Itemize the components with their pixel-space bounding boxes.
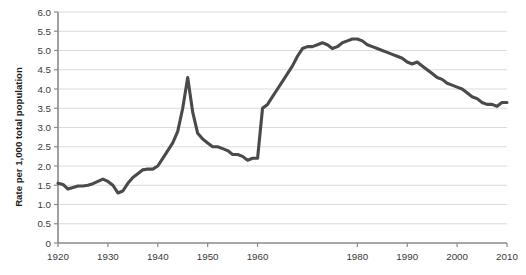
x-tick-label: 1990: [396, 251, 418, 262]
line-chart: 6.05.55.04.54.03.53.02.52.01.51.00.50 19…: [0, 0, 526, 275]
x-tick-label: 1950: [197, 251, 219, 262]
y-tick-label: 1.5: [37, 180, 51, 191]
y-tick-label: 0.5: [37, 218, 51, 229]
y-tick-label: 4.0: [37, 84, 51, 95]
y-tick-label: 5.5: [37, 26, 51, 37]
y-tick-label: 4.5: [37, 64, 51, 75]
y-tick-label: 1.0: [37, 199, 51, 210]
x-tick-label: 2000: [446, 251, 468, 262]
y-tick-label: 2.5: [37, 141, 51, 152]
y-tick-label: 3.0: [37, 122, 51, 133]
y-axis-label: Rate per 1,000 total population: [13, 67, 24, 207]
x-tick-label: 2010: [496, 251, 518, 262]
x-tick-label: 1930: [97, 251, 119, 262]
y-tick-label: 6.0: [37, 7, 51, 18]
y-tick-label: 5.0: [37, 45, 51, 56]
y-tick-label: 0: [46, 238, 52, 249]
x-tick-label: 1940: [147, 251, 169, 262]
y-tick-label: 2.0: [37, 161, 51, 172]
chart-container: 6.05.55.04.54.03.53.02.52.01.51.00.50 19…: [0, 0, 526, 275]
chart-background: [0, 0, 526, 275]
x-tick-label: 1960: [247, 251, 269, 262]
x-tick-label: 1920: [47, 251, 69, 262]
y-tick-label: 3.5: [37, 103, 51, 114]
x-tick-label: 1980: [346, 251, 368, 262]
